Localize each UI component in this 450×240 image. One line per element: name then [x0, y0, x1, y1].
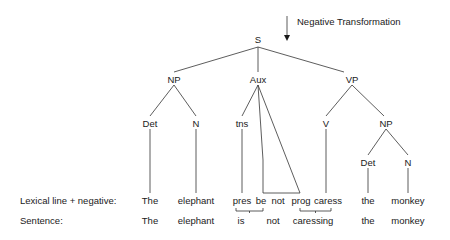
lexical-word: pres: [233, 195, 252, 206]
sentence-word: elephant: [178, 215, 215, 226]
arrowhead-icon: [284, 35, 290, 41]
syntax-tree-diagram: Negative Transformation S NP Aux VP Det …: [0, 0, 450, 240]
bracket-prog-caress: [300, 208, 331, 213]
sentence-word: is: [238, 215, 245, 226]
lexical-word: monkey: [391, 195, 425, 206]
node-s: S: [255, 34, 261, 45]
sentence-word: the: [361, 215, 374, 226]
merge-brackets: [236, 208, 331, 213]
sentence-label: Sentence:: [20, 215, 63, 226]
lexical-word: elephant: [178, 195, 215, 206]
lexical-word: caress: [314, 195, 342, 206]
lexical-line-label: Lexical line + negative:: [20, 195, 116, 206]
sentence-word: monkey: [391, 215, 425, 226]
node-vp-np-n: N: [405, 157, 412, 168]
lexical-word: not: [271, 195, 285, 206]
tree-edges: [150, 47, 408, 193]
negative-transformation-annotation: Negative Transformation: [284, 16, 401, 41]
node-v: V: [323, 118, 330, 129]
lexical-line-row: Lexical line + negative: The elephant pr…: [20, 195, 425, 206]
lexical-word: be: [256, 195, 267, 206]
sentence-word: caressing: [293, 215, 334, 226]
node-vp-np-det: Det: [361, 157, 376, 168]
node-np-n: N: [193, 118, 200, 129]
node-np-det: Det: [143, 118, 158, 129]
bracket-pres-be: [236, 208, 263, 213]
node-vp-np: NP: [379, 118, 392, 129]
lexical-word: The: [142, 195, 158, 206]
lexical-word: the: [361, 195, 374, 206]
tree-nodes: S NP Aux VP Det N tns V NP Det N: [143, 34, 412, 168]
node-vp: VP: [346, 74, 359, 85]
annotation-label: Negative Transformation: [297, 16, 401, 27]
node-aux: Aux: [250, 74, 267, 85]
node-tns: tns: [236, 118, 249, 129]
sentence-word: The: [142, 215, 158, 226]
lexical-word: prog: [291, 195, 310, 206]
sentence-word: not: [266, 215, 280, 226]
sentence-row: Sentence: The elephant is not caressing …: [20, 215, 425, 226]
node-np: NP: [167, 74, 180, 85]
